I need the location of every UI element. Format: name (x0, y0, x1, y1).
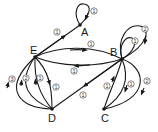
node-E: E (30, 44, 37, 59)
edge-E-B: 1 (35, 41, 122, 59)
svg-text:1: 1 (92, 8, 95, 14)
svg-text:1: 1 (72, 68, 75, 74)
svg-text:1: 1 (54, 84, 57, 90)
svg-text:D: D (48, 112, 56, 124)
node-B: B (110, 46, 124, 61)
svg-text:1: 1 (129, 81, 132, 87)
svg-text:B: B (110, 46, 117, 58)
edge-B-E: 1 (35, 57, 122, 74)
svg-text:2: 2 (145, 78, 148, 84)
svg-text:1: 1 (38, 75, 41, 81)
svg-text:1: 1 (81, 92, 84, 98)
edge-B-B-inner: 1 (121, 38, 138, 59)
edge-D-E-3: 3 (7, 57, 52, 109)
svg-text:1: 1 (133, 38, 136, 44)
svg-text:C: C (101, 112, 109, 124)
graph-canvas: 1 1 1 2 1 1 1 (0, 0, 158, 132)
svg-text:3: 3 (10, 76, 13, 82)
svg-text:2: 2 (143, 26, 146, 32)
svg-text:1: 1 (105, 83, 108, 89)
svg-text:E: E (30, 44, 37, 56)
edge-E-D-1: 1 (35, 57, 59, 109)
edge-B-D: 1 (52, 59, 122, 109)
edge-D-E-2: 2 (21, 57, 52, 109)
svg-text:A: A (81, 26, 89, 38)
node-D: D (48, 107, 56, 124)
svg-text:2: 2 (24, 75, 27, 81)
svg-text:1: 1 (89, 41, 92, 47)
svg-text:1: 1 (55, 29, 58, 35)
edge-E-A: 1 (35, 25, 80, 57)
node-A: A (78, 23, 89, 38)
node-C: C (101, 107, 109, 124)
edge-A-A: 1 (76, 4, 97, 25)
